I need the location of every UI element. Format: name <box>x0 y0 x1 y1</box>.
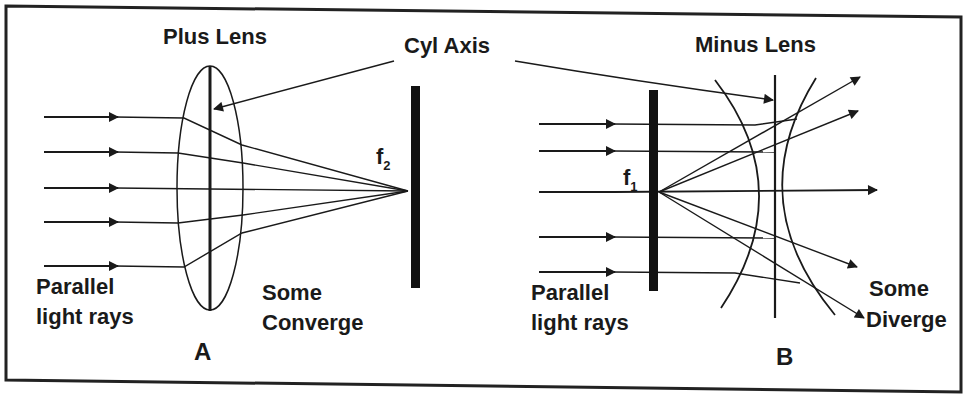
panel-b: Minus Lens <box>531 32 947 370</box>
minus-lens-input-label-1: Parallel <box>531 280 609 305</box>
plus-lens-title: Plus Lens <box>163 24 267 49</box>
cyl-axis-callout: Cyl Axis <box>214 33 773 109</box>
cyl-axis-label: Cyl Axis <box>404 33 490 58</box>
plus-lens-converging-rays <box>115 117 408 267</box>
focal-label-f2: f2 <box>376 144 391 173</box>
minus-lens-diverging-rays <box>659 77 864 318</box>
minus-lens-output-label-2: Diverge <box>866 307 947 332</box>
plus-lens-output-label-2: Converge <box>262 310 363 335</box>
panel-b-letter: B <box>776 343 793 370</box>
minus-lens-input-label-2: light rays <box>531 310 629 335</box>
panel-a-letter: A <box>194 338 211 365</box>
plus-lens-input-label-1: Parallel <box>36 274 114 299</box>
panel-a: Plus Lens f2 Parallel light rays Some <box>36 24 420 365</box>
minus-lens-ray-paths <box>612 119 800 283</box>
minus-lens-title: Minus Lens <box>695 32 816 57</box>
focal-label-f1: f1 <box>623 165 638 194</box>
minus-lens-output-label-1: Some <box>869 276 929 301</box>
minus-lens-right-surface <box>782 78 835 315</box>
minus-lens-incoming-rays <box>539 124 615 272</box>
plus-lens-input-label-2: light rays <box>36 304 134 329</box>
focal-plane-bar-f1 <box>649 90 658 291</box>
cylindrical-lens-diagram: Plus Lens f2 Parallel light rays Some <box>0 0 964 395</box>
plus-lens-output-label-1: Some <box>262 280 322 305</box>
figure-frame <box>6 6 961 392</box>
focal-plane-bar-f2 <box>411 86 420 288</box>
plus-lens-incoming-rays <box>44 117 118 266</box>
